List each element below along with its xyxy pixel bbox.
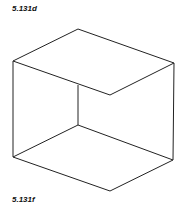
box-edge [78,125,173,160]
box-edge [13,157,110,191]
box-edge [110,63,174,95]
box-edge [110,160,173,191]
box-edge [13,125,78,157]
box-edge [78,29,174,63]
figure-label-bottom: 5.131f [12,195,35,204]
box-edge [13,29,78,61]
box-edge [173,63,174,160]
box-edge [13,61,110,95]
open-box-diagram [0,0,175,207]
